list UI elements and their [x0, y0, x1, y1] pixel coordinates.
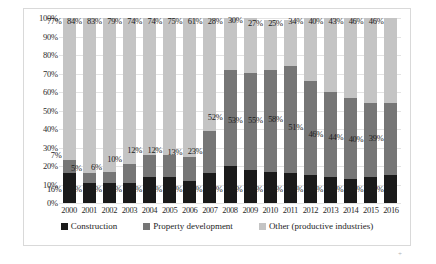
legend-item[interactable]: Construction	[61, 222, 118, 231]
x-axis-tick-label: 2002	[99, 205, 119, 215]
bar-stack	[224, 18, 237, 203]
data-label: 28%	[204, 17, 223, 26]
y-axis-tick-label: 20%	[24, 162, 58, 170]
bar-stack	[83, 18, 96, 203]
data-label: 55%	[244, 116, 263, 125]
bar-segment	[103, 18, 116, 172]
bar-segment	[183, 18, 196, 157]
data-label: 14%	[304, 185, 323, 194]
data-label: 74%	[143, 17, 162, 26]
x-axis-tick-label: 2010	[260, 205, 280, 215]
legend-label: Other (productive industries)	[269, 222, 373, 231]
data-label: 16%	[183, 185, 202, 194]
data-label: 74%	[123, 17, 142, 26]
data-label: 13%	[163, 148, 182, 157]
data-label: 46%	[344, 17, 363, 26]
x-axis-tick-label: 2007	[200, 205, 220, 215]
x-axis-tick-label: 2015	[361, 205, 381, 215]
data-label: 23%	[183, 147, 202, 156]
bar-segment	[384, 175, 397, 203]
data-label: 75%	[163, 17, 182, 26]
bar-stack	[324, 18, 337, 203]
data-label: 34%	[284, 17, 303, 26]
bar-stack	[344, 18, 357, 203]
data-label: 84%	[63, 17, 82, 26]
bar-stack	[284, 18, 297, 203]
data-label: 61%	[183, 17, 202, 26]
x-axis-tick-label: 2005	[160, 205, 180, 215]
bar-segment	[123, 164, 136, 183]
x-axis-tick-label: 2008	[220, 205, 240, 215]
bar-segment	[163, 18, 176, 155]
bar-segment	[143, 18, 156, 155]
bar-stack	[203, 18, 216, 203]
x-axis-tick-label: 2006	[180, 205, 200, 215]
data-label: 17%	[244, 185, 263, 194]
x-axis-tick-label: 2011	[280, 205, 300, 215]
x-axis-tick-label: 2003	[119, 205, 139, 215]
x-axis-tick-label: 2009	[240, 205, 260, 215]
bar-stack	[264, 18, 277, 203]
y-axis-tick-label: 90%	[24, 33, 58, 41]
x-axis-tick-label: 2000	[59, 205, 79, 215]
data-label: 5%	[63, 164, 82, 173]
scan-artifact: +	[398, 252, 403, 257]
legend-swatch-icon	[259, 223, 266, 230]
data-label: 16%	[264, 185, 283, 194]
data-label: 46%	[304, 130, 323, 139]
legend-item[interactable]: Property development	[143, 222, 233, 231]
bar-stack	[163, 18, 176, 203]
data-label: 51%	[284, 123, 303, 132]
x-axis-tick-label: 2014	[341, 205, 361, 215]
legend-item[interactable]: Other (productive industries)	[259, 222, 373, 231]
bar-segment	[284, 20, 297, 66]
bar-segment	[183, 157, 196, 181]
data-label: 83%	[83, 17, 102, 26]
data-label: 15%	[364, 185, 383, 194]
chart-container: 100%90%80%70%60%50%40%30%20%10%0% 16%7%7…	[23, 8, 411, 246]
bar-stack	[143, 18, 156, 203]
data-label: 44%	[324, 133, 343, 142]
bar-stack	[244, 18, 257, 203]
y-axis: 100%90%80%70%60%50%40%30%20%10%0%	[24, 18, 58, 203]
data-label: 79%	[103, 17, 122, 26]
bar-segment	[123, 18, 136, 164]
legend-swatch-icon	[61, 223, 68, 230]
bar-segment	[324, 18, 337, 92]
data-label: 43%	[324, 17, 343, 26]
bar-segment	[304, 18, 317, 81]
x-axis: 2000200120022003200420052006200720082009…	[59, 205, 401, 217]
bar-segment	[224, 18, 237, 70]
data-label: 14%	[344, 185, 363, 194]
data-label: 14%	[123, 185, 142, 194]
x-axis-tick-label: 2001	[79, 205, 99, 215]
y-axis-tick-label: 0%	[24, 199, 58, 207]
plot-area: 16%7%77%11%5%84%11%6%83%11%10%79%14%12%7…	[59, 18, 401, 203]
bar-segment	[384, 18, 397, 103]
bar-segment	[203, 131, 216, 174]
y-axis-tick-label: 80%	[24, 51, 58, 59]
data-label: 58%	[264, 115, 283, 124]
bar-stack	[103, 18, 116, 203]
data-label: 30%	[224, 16, 243, 25]
data-label: 11%	[83, 185, 102, 194]
data-label: 25%	[264, 19, 283, 28]
x-axis-tick-label: 2012	[300, 205, 320, 215]
y-axis-tick-label: 70%	[24, 70, 58, 78]
bar-stack	[63, 18, 76, 203]
data-label: 11%	[63, 185, 82, 194]
data-label: 15%	[284, 185, 303, 194]
x-axis-tick-label: 2004	[139, 205, 159, 215]
gridline	[59, 203, 401, 204]
bar-segment	[83, 18, 96, 173]
bar-segment	[83, 173, 96, 182]
bar-segment	[63, 18, 76, 160]
data-label: 40%	[304, 17, 323, 26]
data-label: 20%	[204, 185, 223, 194]
data-label: 12%	[143, 146, 162, 155]
legend-label: Property development	[153, 222, 233, 231]
bar-segment	[143, 155, 156, 177]
data-label: 77%	[43, 17, 62, 26]
bar-stack	[123, 18, 136, 203]
data-label: 52%	[204, 113, 223, 122]
